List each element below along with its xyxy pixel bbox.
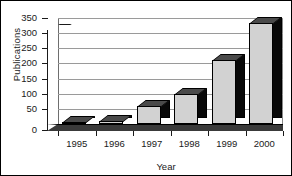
x-axis-tick (96, 131, 97, 136)
bar-side-face (273, 17, 282, 118)
bar-front-face (249, 23, 273, 124)
y-axis-tick (42, 18, 48, 19)
bar-1999 (212, 60, 236, 124)
bar-front-face (137, 106, 161, 124)
bar-side-face (236, 54, 245, 118)
y-axis-tick-label: 100 (0, 88, 37, 99)
plot-area (58, 18, 283, 124)
bar-front-face (174, 94, 198, 124)
y-axis-tick-label: 350 (0, 12, 37, 23)
y-axis-tick-label: 250 (0, 42, 37, 53)
y-axis-line (47, 30, 48, 131)
y-axis-tick-label: 300 (0, 27, 37, 38)
y-axis-tick-label: 150 (0, 73, 37, 84)
bar-1997 (137, 106, 161, 124)
y-axis-spine (47, 24, 59, 131)
y-axis-tick-label: 50 (0, 103, 37, 114)
x-axis-tick (58, 131, 59, 136)
x-axis-title: Year (46, 161, 286, 172)
x-axis-tick (171, 131, 172, 136)
bar-chart-figure: Publications 050100150200250300350 19951… (0, 0, 292, 176)
gridline (58, 18, 283, 19)
chart-floor-edge (47, 124, 283, 125)
x-axis-tick-label: 2000 (241, 138, 287, 149)
chart-floor-top (47, 124, 283, 131)
y-axis-tick-label: 0 (0, 124, 37, 135)
x-axis-tick (246, 131, 247, 136)
bar-2000 (249, 23, 273, 124)
bar-1998 (174, 94, 198, 124)
chart-floor (47, 124, 283, 131)
x-axis-tick (208, 131, 209, 136)
x-axis-tick (133, 131, 134, 136)
x-axis-tick (283, 131, 284, 136)
y-axis-tick-label: 200 (0, 57, 37, 68)
bar-front-face (212, 60, 236, 124)
